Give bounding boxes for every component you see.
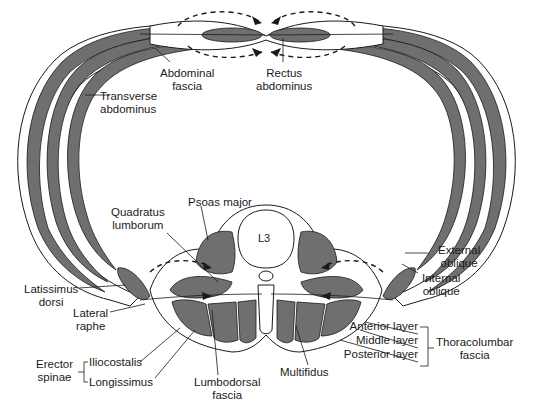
label-thoracolumbar-fascia: Thoracolumbar fascia [436,336,513,362]
label-external-oblique: External oblique [438,244,480,270]
psoas-major-left [196,231,235,274]
label-abdominal-fascia: Abdominal fascia [160,67,214,93]
label-lumbodorsal-fascia: Lumbodorsal fascia [194,376,260,402]
label-multifidus: Multifidus [280,366,329,379]
label-psoas-major: Psoas major [188,196,252,209]
label-internal-oblique: Internal oblique [422,272,460,298]
multifidus-left [238,300,256,343]
label-middle-layer: Middle layer [338,334,418,347]
label-iliocostalis: Iliocostalis [89,356,142,369]
label-latissimus-dorsi: Latissimus dorsi [24,283,78,309]
vertebra-label: L3 [258,232,270,245]
multifidus-right [277,300,295,343]
label-transverse-abdominus: Transverse abdominus [100,90,157,116]
label-lateral-raphe: Lateral raphe [73,307,108,333]
psoas-major-right [298,231,337,274]
spinal-canal [259,271,273,281]
label-quadratus-lumborum: Quadratus lumborum [111,206,165,232]
label-rectus-abdominus: Rectus abdominus [256,67,312,93]
label-posterior-layer: Posterior layer [328,348,418,361]
label-longissimus: Longissimus [89,376,153,389]
label-erector-spinae: Erector spinae [36,358,73,384]
label-anterior-layer: Anterior layer [338,320,418,333]
spinous-process [258,285,274,334]
